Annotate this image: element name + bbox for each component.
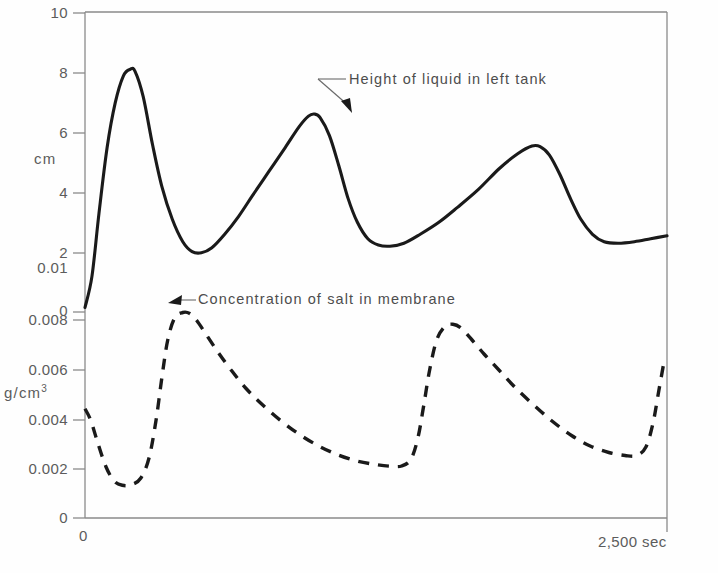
y-tick-upper-6: 6 — [26, 124, 68, 141]
axis-frame — [85, 12, 667, 518]
y-axis-title-lower: g/cm3 — [4, 383, 48, 401]
series-line-salt-concentration — [85, 312, 665, 486]
x-tick-end: 2,500 sec — [598, 533, 667, 550]
chart-figure: 10 8 6 4 2 0 cm 0.01 0.008 0.006 0.004 0… — [0, 0, 718, 573]
y-tick-upper-8: 8 — [26, 64, 68, 81]
y-tick-lower-0002: 0.002 — [0, 460, 68, 477]
y-tick-lower-0: 0 — [0, 509, 68, 526]
y-tick-lower-0004: 0.004 — [0, 411, 68, 428]
y-axis-title-lower-base: g/cm — [4, 384, 41, 401]
y-axis-title-upper: cm — [34, 150, 56, 167]
upper-axis-ticks — [73, 13, 85, 312]
y-tick-upper-4: 4 — [26, 184, 68, 201]
y-tick-lower-001: 0.01 — [0, 259, 68, 276]
y-tick-upper-10: 10 — [26, 4, 68, 21]
x-tick-origin: 0 — [79, 527, 88, 544]
y-tick-lower-0008: 0.008 — [0, 311, 68, 328]
series-line-height-of-liquid — [85, 68, 667, 307]
height-annotation-leader — [318, 79, 352, 113]
concentration-annotation-arrowhead — [168, 295, 182, 305]
concentration-annotation-leader — [168, 295, 196, 305]
annotation-height-of-liquid: Height of liquid in left tank — [349, 71, 547, 87]
lower-axis-ticks — [73, 320, 85, 518]
y-axis-title-lower-exponent: 3 — [41, 383, 48, 394]
y-tick-lower-0006: 0.006 — [0, 361, 68, 378]
annotation-salt-concentration: Concentration of salt in membrane — [198, 291, 456, 307]
